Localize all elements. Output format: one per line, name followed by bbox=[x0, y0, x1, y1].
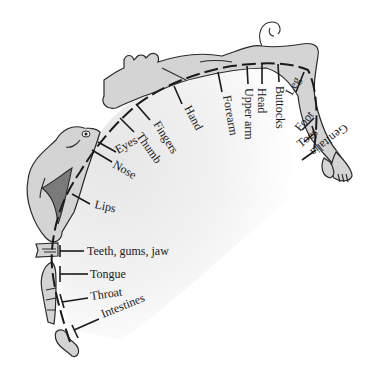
homunculus-diagram: Intestines Throat Tongue Teeth, gums, ja… bbox=[0, 0, 379, 374]
tongue-throat-figure bbox=[41, 262, 56, 324]
tick-buttocks bbox=[278, 64, 279, 82]
label-tongue: Tongue bbox=[90, 267, 126, 281]
jaw-figure bbox=[36, 243, 58, 257]
tick-upper-arm bbox=[247, 66, 248, 84]
label-teeth: Teeth, gums, jaw bbox=[87, 244, 169, 258]
label-head: Head bbox=[255, 88, 269, 113]
label-upper-arm: Upper arm bbox=[242, 88, 256, 140]
